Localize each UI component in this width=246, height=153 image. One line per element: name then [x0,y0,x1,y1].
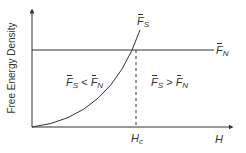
diagram-canvas [0,0,246,153]
region-label-right: FS > FN [151,77,188,90]
fs-curve-label: FS [137,16,149,29]
fn-line-label: FN [216,45,229,58]
region-label-left: FS < FN [66,77,103,90]
critical-field-label: Hc [131,133,143,146]
x-axis-label: H [215,134,223,145]
y-axis-label: Free Energy Density [7,13,17,123]
